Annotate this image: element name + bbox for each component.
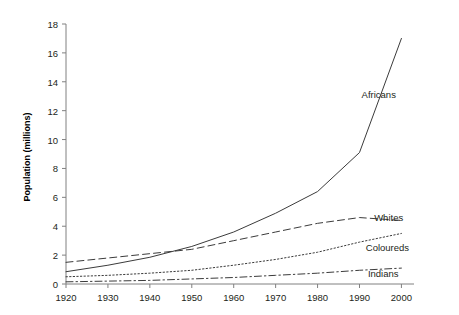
- x-tick-1980: 1980: [307, 292, 328, 303]
- y-tick-14: 14: [28, 76, 58, 87]
- y-tick-2: 2: [28, 250, 58, 261]
- x-tick-1930: 1930: [97, 292, 118, 303]
- x-tick-1920: 1920: [55, 292, 76, 303]
- population-line-chart: Population (millions) 024681012141618 19…: [0, 0, 459, 315]
- x-tick-1950: 1950: [181, 292, 202, 303]
- x-tick-1990: 1990: [349, 292, 370, 303]
- axis-tick-marks: [62, 24, 401, 288]
- y-tick-10: 10: [28, 134, 58, 145]
- series-label-africans: Africans: [362, 89, 396, 100]
- y-tick-18: 18: [28, 19, 58, 30]
- x-tick-1970: 1970: [265, 292, 286, 303]
- series-line-coloureds: [66, 233, 401, 276]
- series-label-indians: Indians: [368, 268, 399, 279]
- x-tick-1960: 1960: [223, 292, 244, 303]
- x-tick-1940: 1940: [139, 292, 160, 303]
- series-line-whites: [66, 218, 401, 263]
- y-tick-16: 16: [28, 47, 58, 58]
- y-tick-8: 8: [28, 163, 58, 174]
- series-line-africans: [66, 38, 401, 271]
- y-tick-4: 4: [28, 221, 58, 232]
- x-tick-2000: 2000: [391, 292, 412, 303]
- y-tick-12: 12: [28, 105, 58, 116]
- series-label-coloureds: Coloureds: [366, 242, 409, 253]
- series-lines: [66, 38, 401, 281]
- y-tick-6: 6: [28, 192, 58, 203]
- y-tick-0: 0: [28, 279, 58, 290]
- series-label-whites: Whites: [374, 212, 403, 223]
- y-axis-title: Population (millions): [22, 77, 32, 237]
- axis-lines: [66, 24, 414, 284]
